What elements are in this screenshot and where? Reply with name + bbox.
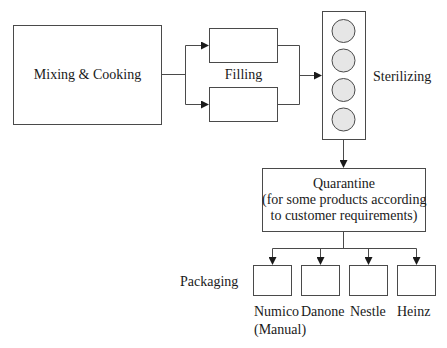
filling-label: Filling <box>209 67 278 83</box>
quarantine-note-line1: (for some products according <box>262 192 426 208</box>
sterilizer-vessel-2 <box>332 49 355 72</box>
pack-line-numico-note: (Manual) <box>254 322 306 338</box>
filler-box-2 <box>210 88 278 122</box>
pack-line-nestle-name: Nestle <box>350 304 386 320</box>
filler-box-1 <box>210 29 278 63</box>
pack-box-heinz <box>398 266 436 296</box>
pack-line-heinz-name: Heinz <box>397 304 430 320</box>
quarantine-note-line2: to customer requirements) <box>262 208 426 224</box>
packaging-label: Packaging <box>180 274 238 290</box>
pack-box-numico <box>254 266 292 296</box>
flow-diagram-canvas <box>0 0 447 348</box>
sterilizing-label: Sterilizing <box>373 69 431 85</box>
mixing-cooking-label: Mixing & Cooking <box>13 67 162 83</box>
quarantine-title: Quarantine <box>262 176 426 192</box>
pack-box-danone <box>302 266 340 296</box>
sterilizer-vessel-1 <box>332 20 355 43</box>
pack-box-nestle <box>350 266 388 296</box>
sterilizer-vessel-3 <box>332 79 355 102</box>
pack-line-danone-name: Danone <box>301 304 345 320</box>
sterilizer-vessel-4 <box>332 108 355 131</box>
pack-line-numico-name: Numico <box>254 304 299 320</box>
